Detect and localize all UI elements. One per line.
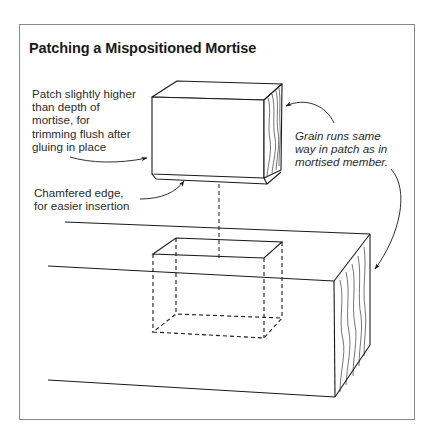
grain-patch-arrow-icon [286,102,334,123]
mortise-cavity [153,238,282,338]
patch-height-arrow-icon [70,157,147,162]
drawing [0,0,440,440]
figure-canvas: Patching a Mispositioned Mortise Patch s… [0,0,440,440]
mortised-member [48,222,370,397]
patch-block [152,81,282,184]
chamfer-arrow-icon [140,181,184,199]
grain-member-arrow-icon [375,169,401,269]
